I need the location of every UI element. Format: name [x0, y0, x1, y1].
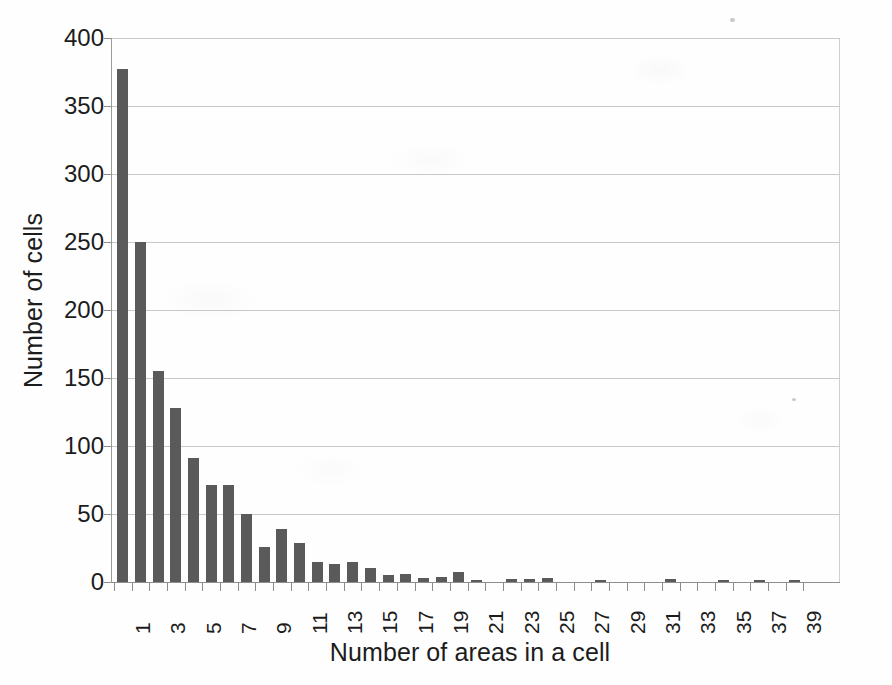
bar [383, 575, 394, 582]
x-tick-mark [167, 583, 168, 591]
x-tick-mark [556, 583, 557, 591]
y-tick-mark [104, 446, 111, 447]
x-tick-mark [627, 583, 628, 591]
x-tick-label: 5 [202, 622, 226, 634]
x-tick-label: 3 [166, 622, 190, 634]
x-tick-label: 11 [308, 612, 332, 634]
plot-area [112, 38, 840, 582]
y-tick-label: 50 [32, 500, 104, 528]
x-tick-mark [538, 583, 539, 591]
x-tick-mark [768, 583, 769, 591]
gridline [112, 38, 840, 39]
bar [365, 568, 376, 582]
y-tick-mark [104, 582, 111, 583]
x-tick-label: 31 [661, 611, 685, 634]
y-tick-label: 100 [32, 432, 104, 460]
x-tick-mark [326, 583, 327, 591]
bar-chart-figure: Number of cells 050100150200250300350400… [0, 0, 892, 685]
gridline [112, 242, 840, 243]
x-tick-label: 25 [555, 611, 579, 634]
x-tick-mark [591, 583, 592, 591]
x-tick-label: 21 [484, 611, 508, 634]
x-tick-label: 15 [378, 611, 402, 634]
x-tick-label: 7 [237, 622, 261, 634]
x-tick-mark [273, 583, 274, 591]
x-tick-mark [644, 583, 645, 591]
x-tick-mark [680, 583, 681, 591]
x-tick-mark [468, 583, 469, 591]
x-tick-label: 29 [626, 611, 650, 634]
y-tick-label: 150 [32, 364, 104, 392]
scan-speck [730, 18, 735, 22]
bar [347, 562, 358, 582]
x-tick-mark [308, 583, 309, 591]
x-tick-label: 37 [767, 611, 791, 634]
y-tick-label: 0 [32, 568, 104, 596]
x-tick-mark [291, 583, 292, 591]
gridline [112, 310, 840, 311]
x-tick-mark [733, 583, 734, 591]
bar [506, 579, 517, 582]
gridline [112, 446, 840, 447]
x-tick-mark [750, 583, 751, 591]
x-tick-mark [397, 583, 398, 591]
x-tick-mark [238, 583, 239, 591]
x-tick-mark [450, 583, 451, 591]
bar [223, 485, 234, 582]
y-tick-mark [104, 310, 111, 311]
x-tick-mark [415, 583, 416, 591]
x-tick-mark [344, 583, 345, 591]
x-tick-mark [132, 583, 133, 591]
gridline [112, 174, 840, 175]
x-tick-mark [185, 583, 186, 591]
gridline [112, 106, 840, 107]
x-tick-mark [220, 583, 221, 591]
y-axis-tick-labels: 050100150200250300350400 [20, 38, 104, 582]
bar [418, 578, 429, 582]
x-tick-mark [697, 583, 698, 591]
x-axis-tick-labels: 13579111315171921232527293133353739 [112, 592, 840, 638]
bar [329, 564, 340, 582]
x-tick-mark [503, 583, 504, 591]
x-tick-mark [432, 583, 433, 591]
x-tick-mark [609, 583, 610, 591]
gridline [112, 378, 840, 379]
x-tick-label: 33 [696, 611, 720, 634]
x-tick-label: 1 [131, 622, 155, 634]
x-tick-mark [114, 583, 115, 591]
bar [259, 547, 270, 582]
y-tick-label: 250 [32, 228, 104, 256]
y-tick-label: 300 [32, 160, 104, 188]
x-tick-label: 27 [590, 611, 614, 634]
x-tick-label: 19 [449, 611, 473, 634]
bar [436, 577, 447, 582]
x-tick-mark [379, 583, 380, 591]
y-tick-mark [104, 106, 111, 107]
x-tick-mark [485, 583, 486, 591]
x-tick-mark [803, 583, 804, 591]
x-tick-mark [574, 583, 575, 591]
x-tick-label: 39 [802, 611, 826, 634]
bar [789, 580, 800, 582]
x-tick-mark [786, 583, 787, 591]
x-tick-label: 17 [414, 611, 438, 634]
bar [276, 529, 287, 582]
bar [595, 580, 606, 582]
bar [524, 579, 535, 582]
bar [754, 580, 765, 582]
y-tick-label: 400 [32, 24, 104, 52]
x-tick-label: 35 [732, 611, 756, 634]
x-tick-mark [255, 583, 256, 591]
bar [665, 579, 676, 582]
bar [241, 514, 252, 582]
y-tick-mark [104, 514, 111, 515]
x-tick-mark [202, 583, 203, 591]
x-tick-mark [149, 583, 150, 591]
bar [400, 574, 411, 582]
bar [312, 562, 323, 582]
y-tick-mark [104, 242, 111, 243]
bar [170, 408, 181, 582]
bar [294, 543, 305, 582]
y-tick-label: 200 [32, 296, 104, 324]
y-tick-mark [104, 38, 111, 39]
